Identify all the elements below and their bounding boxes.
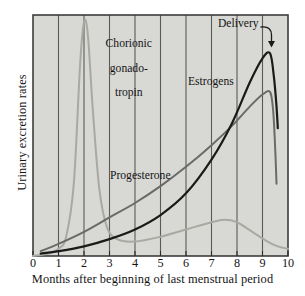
x-tick-label-0: 0 <box>24 256 42 271</box>
x-axis-label: Months after beginning of last menstrual… <box>0 272 305 287</box>
series-label-progesterone: Progesterone <box>110 170 196 182</box>
annotation-label-delivery: Delivery <box>218 18 274 30</box>
series-label-chorionic-gonadotropin: Chorionic gonado- tropin <box>92 26 154 111</box>
x-tick-label-6: 6 <box>177 256 195 271</box>
cg-label-line-1: Chorionic <box>106 37 152 50</box>
x-tick-label-7: 7 <box>203 256 221 271</box>
y-axis-label: Urinary excretion rates <box>15 23 30 243</box>
x-tick-label-4: 4 <box>126 256 144 271</box>
chart-figure: Urinary excretion rates Months after beg… <box>0 0 305 296</box>
cg-label-line-2: gonado- <box>110 62 148 75</box>
x-tick-label-2: 2 <box>75 256 93 271</box>
x-tick-label-5: 5 <box>152 256 170 271</box>
x-tick-label-1: 1 <box>50 256 68 271</box>
x-tick-label-10: 10 <box>279 256 297 271</box>
x-tick-label-3: 3 <box>101 256 119 271</box>
x-tick-label-9: 9 <box>254 256 272 271</box>
cg-label-line-3: tropin <box>115 86 143 99</box>
series-label-estrogens: Estrogens <box>188 76 256 88</box>
x-tick-label-8: 8 <box>228 256 246 271</box>
